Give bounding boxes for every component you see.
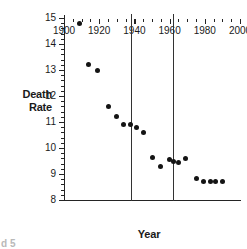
y-tick-minor [61, 86, 64, 87]
x-tick-major [240, 19, 241, 24]
x-tick-minor [196, 19, 197, 22]
x-tick-minor [231, 19, 232, 22]
x-tick-major [170, 19, 171, 24]
x-tick-major [99, 19, 100, 24]
x-tick-label: 1960 [153, 26, 187, 36]
data-point [208, 179, 213, 184]
data-point [128, 122, 133, 127]
x-tick-minor [73, 19, 74, 22]
y-tick-minor [61, 106, 64, 107]
x-tick-major [134, 19, 135, 24]
y-tick-minor [61, 132, 64, 133]
y-tick-major [59, 70, 64, 71]
y-tick-major [59, 148, 64, 149]
y-tick-minor [61, 169, 64, 170]
y-tick-label: 12 [34, 91, 56, 101]
y-tick-minor [61, 91, 64, 92]
y-tick-minor [61, 65, 64, 66]
y-tick-minor [61, 138, 64, 139]
y-tick-minor [61, 195, 64, 196]
data-point [213, 179, 218, 184]
y-tick-minor [61, 49, 64, 50]
y-tick-major [59, 44, 64, 45]
data-point [220, 179, 225, 184]
y-tick-minor [61, 60, 64, 61]
reference-line [131, 14, 132, 201]
death-rate-scatter-chart: Death Rate 89101112131415 19001920194019… [0, 0, 247, 249]
plot-area: 89101112131415 190019201940196019802000 [64, 18, 240, 200]
data-point [158, 164, 163, 169]
y-tick-major [59, 174, 64, 175]
y-tick-minor [61, 190, 64, 191]
y-tick-label: 8 [34, 195, 56, 205]
x-tick-label: 1920 [82, 26, 116, 36]
y-tick-major [59, 200, 64, 201]
y-tick-minor [61, 179, 64, 180]
y-tick-minor [61, 80, 64, 81]
y-axis-label-line-2: Rate [0, 101, 52, 114]
y-tick-label: 11 [34, 117, 56, 127]
x-tick-minor [108, 19, 109, 22]
y-tick-minor [61, 164, 64, 165]
x-tick-major [64, 19, 65, 24]
data-point [86, 62, 91, 67]
x-tick-label: 1900 [47, 26, 81, 36]
x-tick-label: 2000 [223, 26, 247, 36]
y-tick-label: 13 [34, 65, 56, 75]
data-point [171, 159, 176, 164]
y-tick-minor [61, 39, 64, 40]
data-point [194, 176, 199, 181]
y-tick-label: 10 [34, 143, 56, 153]
x-tick-minor [214, 19, 215, 22]
y-tick-label: 9 [34, 169, 56, 179]
data-point [150, 155, 155, 160]
data-point [106, 104, 111, 109]
x-tick-major [205, 19, 206, 24]
y-tick-label: 15 [34, 13, 56, 23]
data-point [141, 130, 146, 135]
x-tick-minor [161, 19, 162, 22]
y-tick-minor [61, 184, 64, 185]
y-tick-major [59, 122, 64, 123]
x-tick-minor [117, 19, 118, 22]
data-point [201, 179, 206, 184]
x-tick-label: 1940 [117, 26, 151, 36]
x-tick-label: 1980 [188, 26, 222, 36]
x-tick-minor [126, 19, 127, 22]
y-tick-minor [61, 158, 64, 159]
y-tick-minor [61, 117, 64, 118]
y-tick-minor [61, 153, 64, 154]
x-tick-minor [178, 19, 179, 22]
x-tick-minor [222, 19, 223, 22]
x-axis-line [63, 200, 241, 201]
y-tick-major [59, 96, 64, 97]
data-point [95, 68, 100, 73]
x-tick-minor [152, 19, 153, 22]
y-tick-minor [61, 112, 64, 113]
data-point [121, 122, 126, 127]
x-tick-minor [187, 19, 188, 22]
y-tick-minor [61, 54, 64, 55]
data-point [176, 160, 181, 165]
y-tick-minor [61, 75, 64, 76]
figure-caption: d 5 [1, 238, 15, 249]
data-point [114, 114, 119, 119]
x-axis-label: Year [56, 228, 242, 240]
reference-line [173, 14, 174, 201]
data-point [183, 156, 188, 161]
x-tick-minor [90, 19, 91, 22]
y-tick-label: 14 [34, 39, 56, 49]
y-axis-line [64, 15, 65, 200]
y-tick-minor [61, 127, 64, 128]
x-tick-minor [143, 19, 144, 22]
y-tick-minor [61, 143, 64, 144]
data-point [77, 21, 82, 26]
y-tick-minor [61, 101, 64, 102]
data-point [134, 125, 139, 130]
